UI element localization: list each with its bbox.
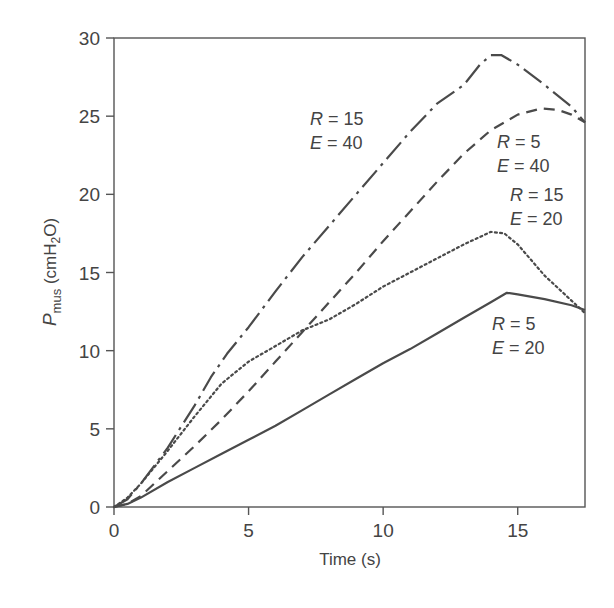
- x-tick-label: 0: [109, 520, 120, 541]
- series-line-dotted: [114, 232, 585, 507]
- svg-text:E = 40: E = 40: [310, 133, 363, 153]
- y-tick-label: 10: [79, 341, 100, 362]
- series-annotations: R = 15E = 40R = 5E = 40R = 15E = 20R = 5…: [310, 109, 564, 358]
- svg-text:R = 15: R = 15: [510, 185, 564, 205]
- y-tick-label: 30: [79, 28, 100, 49]
- y-tick-label: 25: [79, 106, 100, 127]
- x-tick-label: 10: [373, 520, 394, 541]
- y-tick-label: 15: [79, 263, 100, 284]
- series-label: R = 5E = 20: [492, 314, 545, 358]
- svg-text:R = 5: R = 5: [497, 132, 541, 152]
- series-label: R = 15E = 40: [310, 109, 364, 153]
- y-tick-label: 20: [79, 184, 100, 205]
- svg-text:E = 20: E = 20: [492, 338, 545, 358]
- x-axis-title: Time (s): [319, 550, 381, 569]
- x-tick-label: 5: [243, 520, 254, 541]
- y-axis-title: Pmus (cmH2O): [39, 218, 64, 326]
- y-tick-label: 0: [89, 497, 100, 518]
- axes: 051015202530051015: [79, 28, 585, 541]
- svg-text:R = 5: R = 5: [492, 314, 536, 334]
- series-label: R = 5E = 40: [497, 132, 550, 176]
- x-tick-label: 15: [507, 520, 528, 541]
- y-tick-label: 5: [89, 419, 100, 440]
- pmus-line-chart: 051015202530051015 R = 15E = 40R = 5E = …: [0, 0, 614, 608]
- svg-text:E = 20: E = 20: [510, 209, 563, 229]
- series-label: R = 15E = 20: [510, 185, 564, 229]
- svg-text:R = 15: R = 15: [310, 109, 364, 129]
- svg-text:E = 40: E = 40: [497, 156, 550, 176]
